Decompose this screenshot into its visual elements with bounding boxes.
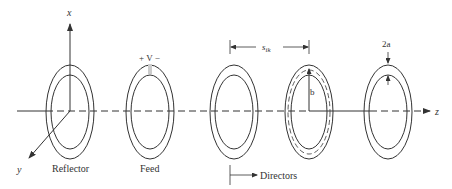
director-2-loop: [285, 65, 333, 159]
y-axis-label: y: [16, 164, 22, 175]
z-axis-label: z: [434, 106, 439, 117]
antenna-diagram: z x y Reflector + V − Feed b: [0, 0, 452, 189]
director-3-loop: [364, 52, 412, 159]
spacing-dimension: sik: [230, 40, 309, 54]
directors-indicator: Directors: [230, 165, 297, 185]
x-axis-label: x: [66, 7, 72, 18]
x-axis: x: [66, 7, 72, 111]
radius-label: b: [310, 87, 315, 97]
director-1-loop: [210, 65, 258, 159]
feed-gap: [148, 64, 152, 74]
directors-label: Directors: [260, 170, 297, 181]
spacing-label: sik: [262, 42, 271, 54]
feed-voltage-label: + V −: [139, 53, 160, 63]
feed-label: Feed: [140, 163, 159, 174]
reflector-label: Reflector: [52, 163, 90, 174]
thickness-label: 2a: [382, 39, 391, 49]
z-axis: z: [17, 106, 439, 117]
